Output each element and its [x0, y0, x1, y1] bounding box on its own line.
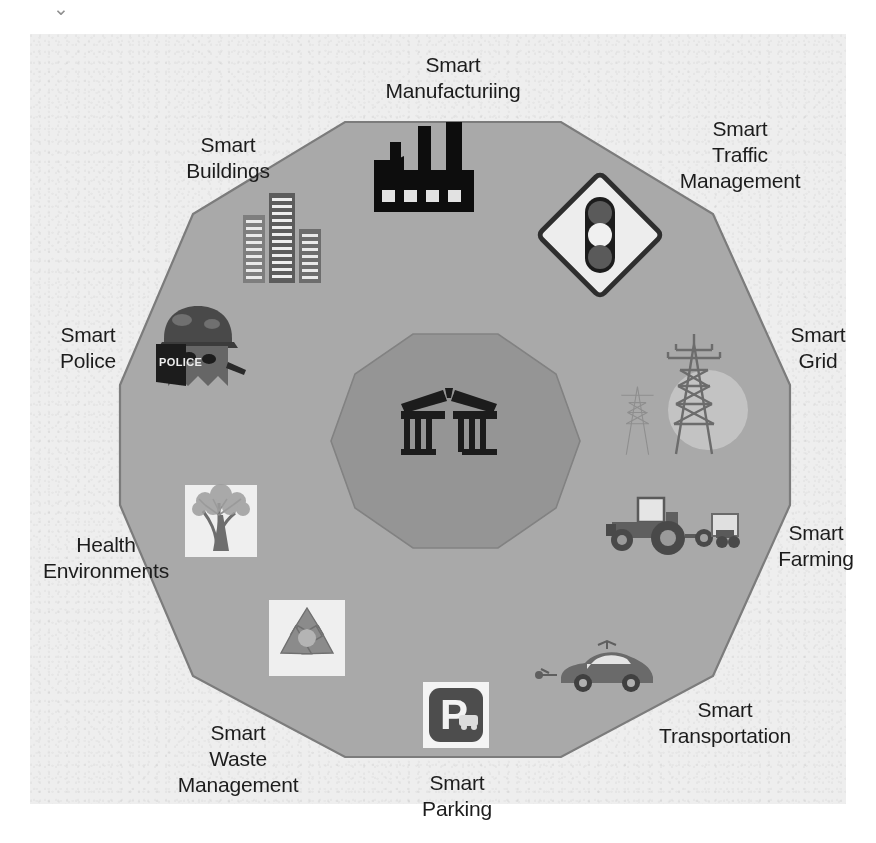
svg-text:POLICE: POLICE [159, 356, 202, 368]
svg-text:P: P [440, 691, 468, 738]
sector-label-health-environments: Health Environments [18, 532, 194, 584]
sector-label-smart-traffic-management: Smart Traffic Management [640, 116, 840, 194]
figure-page: ⌄ [0, 0, 876, 843]
sector-label-smart-manufacturing: Smart Manufacturiing [368, 52, 538, 104]
parking-sign-icon: P [423, 682, 489, 748]
sector-label-smart-farming: Smart Farming [756, 520, 876, 572]
sector-label-smart-police: Smart Police [20, 322, 156, 374]
sector-label-smart-parking: Smart Parking [382, 770, 532, 822]
tree-icon [185, 484, 257, 557]
recycling-icon [269, 600, 345, 676]
sector-label-smart-transportation: Smart Transportation [620, 697, 830, 749]
sector-label-smart-buildings: Smart Buildings [148, 132, 308, 184]
inner-decagon [331, 334, 580, 548]
sector-label-smart-grid: Smart Grid [760, 322, 876, 374]
sector-label-smart-waste-management: Smart Waste Management [132, 720, 344, 798]
